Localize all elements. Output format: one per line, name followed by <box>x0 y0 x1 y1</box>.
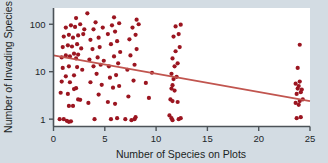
data-point <box>172 64 176 68</box>
data-point <box>178 45 182 49</box>
data-point <box>100 83 104 87</box>
chart-container: 0510152025 110100 Number of Species on P… <box>0 0 328 163</box>
data-point <box>98 45 102 49</box>
data-point <box>123 117 127 121</box>
data-point <box>58 117 62 121</box>
data-point <box>93 20 97 24</box>
data-point <box>76 33 80 37</box>
data-point <box>67 33 71 37</box>
data-point <box>109 42 113 46</box>
y-axis-title: Number of Invading Species <box>2 1 14 133</box>
data-point <box>85 11 89 15</box>
data-point <box>297 84 301 88</box>
data-point <box>88 80 92 84</box>
data-point <box>173 24 177 28</box>
data-point <box>71 36 75 40</box>
data-point <box>299 115 303 119</box>
data-point <box>300 87 304 91</box>
data-point <box>170 83 174 87</box>
data-point <box>170 99 174 103</box>
x-tick-label: 10 <box>151 133 162 144</box>
data-point <box>74 86 78 90</box>
data-point <box>128 53 132 57</box>
y-tick-label: 10 <box>35 66 46 77</box>
data-point <box>179 116 183 120</box>
data-point <box>135 18 139 22</box>
data-point <box>79 46 83 50</box>
x-tick-label: 15 <box>202 133 213 144</box>
data-point <box>113 102 117 106</box>
x-axis-title: Number of Species on Plots <box>116 148 246 160</box>
data-point <box>115 39 119 43</box>
data-point <box>78 98 82 102</box>
data-point <box>131 78 135 82</box>
data-point <box>117 84 121 88</box>
data-point <box>106 32 110 36</box>
data-point <box>110 23 114 27</box>
data-point <box>59 91 63 95</box>
data-point <box>72 52 76 56</box>
data-point <box>172 88 176 92</box>
data-point <box>60 79 64 83</box>
data-point <box>132 63 136 67</box>
data-point <box>70 44 74 48</box>
data-point <box>92 117 96 121</box>
data-point <box>147 96 151 100</box>
data-point <box>82 27 86 31</box>
data-point <box>90 47 94 51</box>
x-tick-label: 25 <box>305 133 316 144</box>
data-point <box>111 86 115 90</box>
data-point <box>112 54 116 58</box>
data-point <box>67 64 71 68</box>
data-point <box>69 119 73 123</box>
y-tick-label: 1 <box>40 114 45 125</box>
data-point <box>173 49 177 53</box>
data-point <box>179 23 183 27</box>
data-point <box>176 100 180 104</box>
data-point <box>88 38 92 42</box>
data-point <box>295 92 299 96</box>
data-point <box>130 26 134 30</box>
data-point <box>94 72 98 76</box>
data-point <box>97 36 101 40</box>
data-point <box>72 73 76 77</box>
data-point <box>116 61 120 65</box>
data-point <box>135 47 139 51</box>
x-tick-label: 0 <box>51 133 56 144</box>
data-point <box>64 74 68 78</box>
data-point <box>96 55 100 59</box>
data-point <box>113 30 117 34</box>
data-point <box>177 32 181 36</box>
data-point <box>76 52 80 56</box>
data-point <box>170 118 174 122</box>
data-point <box>298 43 302 47</box>
data-point <box>81 32 85 36</box>
data-point <box>66 43 70 47</box>
data-point <box>91 27 95 31</box>
data-point <box>61 66 65 70</box>
data-point <box>115 116 119 120</box>
data-point <box>171 34 175 38</box>
data-point <box>295 116 299 120</box>
data-point <box>297 103 301 107</box>
data-point <box>108 76 112 80</box>
data-point <box>101 26 105 30</box>
data-point <box>117 21 121 25</box>
data-point <box>67 104 71 108</box>
data-point <box>97 92 101 96</box>
data-point <box>75 42 79 46</box>
data-point <box>71 104 75 108</box>
data-point <box>298 79 302 83</box>
data-point <box>74 16 78 20</box>
data-point <box>170 56 174 60</box>
data-point <box>112 15 116 19</box>
data-point <box>73 25 77 29</box>
data-point <box>296 66 300 70</box>
data-point <box>78 22 82 26</box>
data-point <box>62 34 66 38</box>
y-tick-label: 100 <box>30 19 46 30</box>
data-point <box>102 59 106 63</box>
data-point <box>109 117 113 121</box>
data-point <box>75 65 79 69</box>
x-tick-label: 20 <box>253 133 264 144</box>
